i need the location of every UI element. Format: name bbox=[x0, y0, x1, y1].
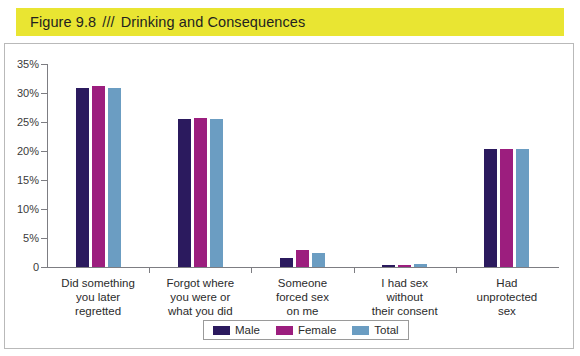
figure-number: Figure 9.8 bbox=[30, 14, 96, 30]
figure-separator: /// bbox=[96, 14, 120, 30]
legend-item-total[interactable]: Total bbox=[352, 324, 398, 336]
x-axis-tick bbox=[251, 268, 252, 273]
legend-swatch-male bbox=[213, 326, 230, 335]
y-axis-tick-label: 20% bbox=[5, 145, 39, 157]
bar-male[interactable] bbox=[382, 265, 395, 267]
y-axis-tick-label: 10% bbox=[5, 203, 39, 215]
x-axis-category-label: I had sex without their consent bbox=[354, 276, 456, 318]
x-axis-category-label: Someone forced sex on me bbox=[251, 276, 353, 318]
y-axis-tick-label: 30% bbox=[5, 87, 39, 99]
chart-frame: 05%10%15%20%25%30%35% Did something you … bbox=[4, 43, 574, 349]
legend-label: Total bbox=[374, 324, 398, 336]
bar-female[interactable] bbox=[398, 265, 411, 267]
legend-swatch-total bbox=[352, 326, 369, 335]
bar-group bbox=[354, 64, 456, 267]
bars-plot-area bbox=[47, 64, 558, 267]
legend-item-male[interactable]: Male bbox=[213, 324, 260, 336]
bar-group bbox=[456, 64, 558, 267]
legend-item-female[interactable]: Female bbox=[276, 324, 336, 336]
y-axis-tick-label: 5% bbox=[5, 232, 39, 244]
legend-label: Male bbox=[235, 324, 260, 336]
bar-group bbox=[149, 64, 251, 267]
bar-total[interactable] bbox=[414, 264, 427, 267]
y-axis-tick-label: 35% bbox=[5, 58, 39, 70]
chart-plot-wrapper: 05%10%15%20%25%30%35% Did something you … bbox=[5, 44, 575, 350]
legend-label: Female bbox=[298, 324, 336, 336]
y-axis-tick-label: 25% bbox=[5, 116, 39, 128]
bar-male[interactable] bbox=[484, 149, 497, 267]
bar-female[interactable] bbox=[194, 118, 207, 267]
bar-group bbox=[47, 64, 149, 267]
x-axis-tick bbox=[456, 268, 457, 273]
bar-total[interactable] bbox=[312, 253, 325, 267]
bar-total[interactable] bbox=[108, 88, 121, 267]
x-axis-category-label: Did something you later regretted bbox=[47, 276, 149, 318]
x-axis-category-label: Had unprotected sex bbox=[456, 276, 558, 318]
x-axis-tick bbox=[354, 268, 355, 273]
bar-female[interactable] bbox=[296, 250, 309, 267]
bar-group bbox=[251, 64, 353, 267]
x-axis-line bbox=[47, 267, 559, 268]
bar-total[interactable] bbox=[516, 149, 529, 267]
chart-legend: MaleFemaleTotal bbox=[203, 320, 409, 340]
legend-swatch-female bbox=[276, 326, 293, 335]
figure-title-text: Figure 9.8///Drinking and Consequences bbox=[16, 14, 305, 30]
bar-male[interactable] bbox=[76, 88, 89, 267]
y-axis-tick-label: 15% bbox=[5, 174, 39, 186]
bar-male[interactable] bbox=[178, 119, 191, 267]
y-axis-tick-label: 0 bbox=[5, 261, 39, 273]
bar-total[interactable] bbox=[210, 119, 223, 267]
x-axis-tick bbox=[149, 268, 150, 273]
figure-title-band: Figure 9.8///Drinking and Consequences bbox=[16, 8, 564, 36]
x-axis-category-label: Forgot where you were or what you did bbox=[149, 276, 251, 318]
y-axis-tick bbox=[41, 267, 47, 268]
figure-caption: Drinking and Consequences bbox=[121, 14, 306, 30]
bar-female[interactable] bbox=[500, 149, 513, 267]
bar-female[interactable] bbox=[92, 86, 105, 267]
bar-male[interactable] bbox=[280, 258, 293, 267]
